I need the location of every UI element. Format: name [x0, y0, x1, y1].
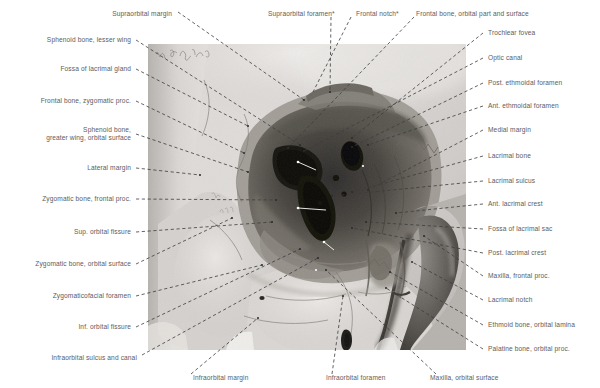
label-lateral-margin: Lateral margin [87, 164, 131, 172]
label-lacrimal-sulcus: Lacrimal sulcus [488, 177, 535, 185]
label-inf-orbital-fissure: Inf. orbital fissure [78, 323, 131, 331]
label-supraorbital-foramen: Supraorbital foramen* [268, 10, 335, 18]
label-maxilla-frontal-proc: Maxilla, frontal proc. [488, 272, 550, 280]
label-infraorbital-foramen: Infraorbital foramen [326, 374, 386, 382]
label-lacrimal-bone: Lacrimal bone [488, 152, 531, 160]
label-frontal-bone-zygomatic-proc: Frontal bone, zygomatic proc. [41, 97, 131, 105]
label-optic-canal: Optic canal [488, 54, 522, 62]
label-fossa-lacrimal-sac: Fossa of lacrimal sac [488, 225, 552, 233]
label-zygomatic-bone-frontal-proc: Zygomatic bone, frontal proc. [42, 195, 131, 203]
label-palatine-bone-orbital-proc: Palatine bone, orbital proc. [488, 345, 570, 353]
label-trochlear-fovea: Trochlear fovea [488, 29, 535, 37]
anatomy-plate: Supraorbital margin Supraorbital foramen… [0, 0, 600, 388]
label-post-lacrimal-crest: Post. lacrimal crest [488, 249, 546, 257]
label-lacrimal-notch: Lacrimal notch [488, 296, 533, 304]
label-infraorbital-sulcus-and-canal: Infraorbital sulcus and canal [51, 354, 137, 362]
label-fossa-lacrimal-gland: Fossa of lacrimal gland [60, 65, 131, 73]
label-zygomatic-bone-orbital-surface: Zygomatic bone, orbital surface [35, 260, 131, 268]
orbit-photograph [148, 44, 466, 350]
label-sup-orbital-fissure: Sup. orbital fissure [74, 228, 131, 236]
label-maxilla-orbital-surface: Maxilla, orbital surface [430, 374, 498, 382]
label-supraorbital-margin: Supraorbital margin [112, 10, 172, 18]
label-sphenoid-greater-wing: Sphenoid bone, greater wing, orbital sur… [46, 126, 131, 143]
label-ethmoid-bone-orbital-lamina: Ethmoid bone, orbital lamina [488, 321, 575, 329]
label-ant-ethmoidal-foramen: Ant. ethmoidal foramen [488, 102, 559, 110]
label-zygomaticofacial-foramen: Zygomaticofacial foramen [53, 292, 131, 300]
label-frontal-notch: Frontal notch* [356, 10, 399, 18]
label-post-ethmoidal-foramen: Post. ethmoidal foramen [488, 79, 562, 87]
label-frontal-bone-orbital-part: Frontal bone, orbital part and surface [416, 10, 529, 18]
label-infraorbital-margin: Infraorbital margin [193, 374, 248, 382]
label-ant-lacrimal-crest: Ant. lacrimal crest [488, 200, 543, 208]
label-medial-margin: Medial margin [488, 126, 531, 134]
label-sphenoid-lesser-wing: Sphenoid bone, lesser wing [47, 36, 131, 44]
